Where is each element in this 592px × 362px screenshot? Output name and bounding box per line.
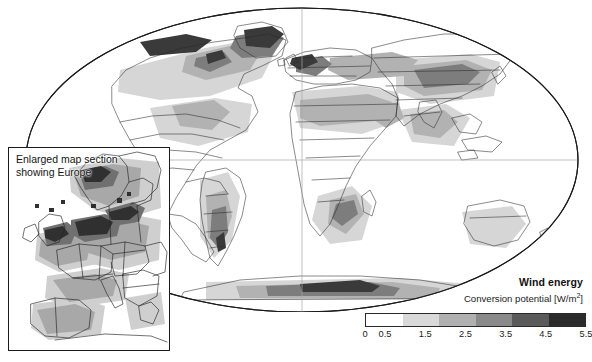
legend-subtitle-prefix: Conversion potential [W/m [464, 293, 577, 304]
legend-tick-labels: 00.51.52.53.54.55.5 [365, 329, 586, 343]
inset-caption-line1: Enlarged map section [16, 153, 118, 166]
colorbar-band-1 [403, 314, 440, 326]
legend-tick-4: 3.5 [499, 329, 512, 339]
legend-tick-0: 0 [362, 329, 367, 339]
legend-colorbar [365, 313, 586, 327]
inset-caption-line2: showing Europe [16, 166, 118, 179]
europe-inset-panel: Enlarged map section showing Europe [8, 147, 170, 351]
legend-subtitle-suffix: ] [580, 293, 583, 304]
colorbar-band-4 [512, 314, 549, 326]
legend: Wind energy Conversion potential [W/m2] … [363, 276, 589, 356]
legend-tick-5: 4.5 [539, 329, 552, 339]
legend-tick-1: 0.5 [379, 329, 392, 339]
legend-subtitle: Conversion potential [W/m2] [464, 292, 583, 304]
colorbar-band-0 [366, 314, 403, 326]
colorbar-band-3 [476, 314, 513, 326]
legend-tick-2: 1.5 [419, 329, 432, 339]
figure-root: Enlarged map section showing Europe Wind… [0, 0, 592, 362]
inset-caption: Enlarged map section showing Europe [16, 153, 118, 179]
legend-title: Wind energy [519, 276, 583, 288]
legend-tick-6: 5.5 [580, 329, 592, 339]
legend-tick-3: 2.5 [459, 329, 472, 339]
colorbar-band-2 [439, 314, 476, 326]
colorbar-band-5 [549, 314, 586, 326]
